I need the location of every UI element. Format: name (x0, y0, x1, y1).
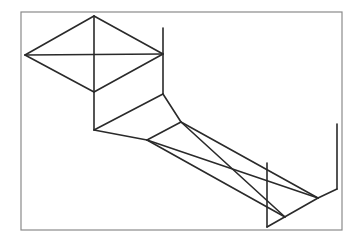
segment-CD (94, 54, 163, 92)
segment-BC (94, 16, 163, 54)
diagram-frame (21, 12, 342, 230)
segment-NJ (267, 198, 318, 227)
segment-HO (181, 122, 285, 217)
segment-AB (25, 16, 94, 55)
segment-HJ (181, 122, 318, 198)
segment-JK (318, 189, 337, 198)
segment-HI (147, 122, 181, 140)
segment-FH (163, 94, 181, 122)
segment-DA (25, 55, 94, 92)
segment-GI (94, 130, 147, 140)
diagram-segments (25, 16, 337, 227)
segment-FG (94, 94, 163, 130)
segment-IO (147, 140, 285, 217)
line-diagram (0, 0, 358, 242)
